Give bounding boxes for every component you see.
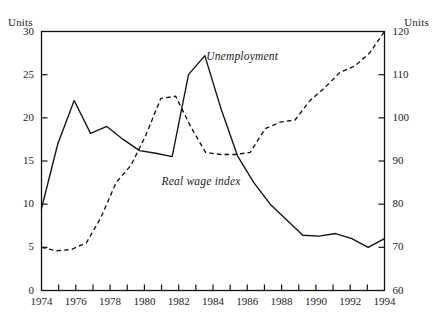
plot-frame [42, 32, 385, 291]
left-axis-tick-label: 10 [4, 198, 34, 209]
data-series [42, 32, 385, 251]
chart-plot-svg [0, 0, 435, 326]
right-axis-tick-label: 120 [393, 26, 433, 37]
right-axis-tick-label: 100 [393, 112, 433, 123]
left-axis-tick-label: 15 [4, 155, 34, 166]
left-axis-tick-label: 20 [4, 112, 34, 123]
left-axis-tick-label: 5 [4, 241, 34, 252]
right-axis-tick-label: 90 [393, 155, 433, 166]
left-axis-tick-label: 30 [4, 26, 34, 37]
series-annotation: Unemployment [206, 50, 278, 62]
series-line-unemployment [42, 56, 385, 248]
right-axis-tick-label: 70 [393, 241, 433, 252]
chart-container: Units Units 0510152025306070809010011012… [0, 0, 435, 326]
left-axis-tick-label: 25 [4, 69, 34, 80]
left-axis-tick-label: 0 [4, 285, 34, 296]
plot-border [42, 32, 385, 291]
x-axis-tick-label: 1994 [360, 296, 410, 307]
right-axis-tick-label: 80 [393, 198, 433, 209]
series-annotation: Real wage index [162, 175, 241, 187]
right-axis-tick-label: 60 [393, 285, 433, 296]
series-line-real-wage-index [42, 32, 385, 251]
right-axis-tick-label: 110 [393, 69, 433, 80]
